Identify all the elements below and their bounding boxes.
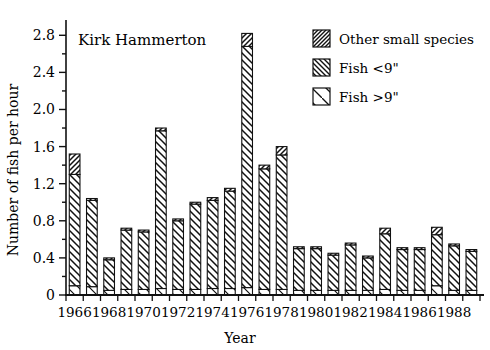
- legend-label: Fish <9": [339, 60, 399, 76]
- y-tick-label: 2.8: [33, 27, 55, 43]
- bar-segment: [87, 199, 98, 201]
- bar-group: [121, 228, 132, 295]
- chart-figure: 00.40.81.21.62.02.42.8 19661968197019721…: [0, 0, 490, 350]
- bar-group: [87, 199, 98, 295]
- bar-segment: [397, 248, 408, 250]
- bar-group: [397, 248, 408, 295]
- bar-group: [173, 219, 184, 295]
- bar-segment: [104, 260, 115, 291]
- bar-segment: [138, 230, 149, 232]
- x-tick-label: 1978: [264, 304, 298, 320]
- bar-segment: [466, 250, 477, 252]
- bar-segment: [69, 286, 80, 295]
- bar-group: [328, 253, 339, 295]
- x-tick-label: 1982: [333, 304, 367, 320]
- x-tick-label: 1972: [161, 304, 195, 320]
- bar-segment: [397, 250, 408, 291]
- bar-segment: [345, 243, 356, 245]
- bar-segment: [190, 202, 201, 204]
- legend-swatch: [313, 88, 330, 105]
- x-tick-label: 1988: [437, 304, 471, 320]
- bar-segment: [242, 288, 253, 295]
- bar-segment: [121, 230, 132, 289]
- y-axis-label: Number of fish per hour: [5, 83, 21, 256]
- bar-segment: [345, 245, 356, 290]
- bar-segment: [242, 33, 253, 46]
- bar-segment: [87, 200, 98, 286]
- bar-segment: [276, 155, 287, 290]
- x-tick-label: 1986: [402, 304, 436, 320]
- bar-segment: [363, 258, 374, 290]
- bar-segment: [207, 289, 218, 295]
- bar-segment: [207, 198, 218, 201]
- x-tick-label: 1966: [57, 304, 91, 320]
- x-tick-label: 1984: [368, 304, 402, 320]
- bar-segment: [190, 204, 201, 289]
- bar-segment: [156, 131, 167, 289]
- bar-segment: [328, 255, 339, 290]
- bar-group: [207, 198, 218, 295]
- bar-segment: [363, 256, 374, 258]
- bar-segment: [311, 249, 322, 291]
- bar-group: [225, 188, 236, 295]
- bar-segment: [432, 286, 443, 295]
- bar-segment: [414, 250, 425, 291]
- bar-segment: [328, 253, 339, 255]
- bar-segment: [380, 234, 391, 290]
- bar-segment: [156, 128, 167, 131]
- bar-segment: [173, 221, 184, 290]
- bar-group: [190, 202, 201, 295]
- bar-segment: [173, 219, 184, 221]
- bar-group: [276, 147, 287, 295]
- x-tick-label: 1968: [92, 304, 126, 320]
- bar-segment: [311, 247, 322, 249]
- x-axis-label: Year: [223, 330, 256, 346]
- bar-group: [156, 128, 167, 295]
- bar-segment: [466, 251, 477, 290]
- x-tick-label: 1970: [126, 304, 160, 320]
- y-tick-label: 0.4: [33, 250, 55, 266]
- bar-group: [380, 228, 391, 295]
- bar-segment: [156, 289, 167, 295]
- y-tick-label: 1.6: [33, 139, 55, 155]
- bar-group: [294, 247, 305, 295]
- bar-segment: [449, 244, 460, 246]
- bar-segment: [259, 165, 270, 169]
- bar-group: [414, 248, 425, 295]
- x-tick-label: 1974: [195, 304, 229, 320]
- x-tick-label: 1980: [299, 304, 333, 320]
- bar-segment: [207, 200, 218, 288]
- bar-group: [104, 258, 115, 295]
- bar-segment: [225, 191, 236, 288]
- y-tick-label: 0: [46, 287, 55, 303]
- bar-segment: [121, 228, 132, 230]
- bar-group: [69, 154, 80, 295]
- chart-title: Kirk Hammerton: [78, 31, 207, 49]
- y-tick-label: 2.0: [33, 101, 55, 117]
- y-tick-label: 1.2: [33, 176, 55, 192]
- y-tick-label: 0.8: [33, 213, 55, 229]
- bar-segment: [69, 154, 80, 174]
- bar-segment: [138, 232, 149, 290]
- bar-segment: [380, 228, 391, 234]
- bar-segment: [432, 227, 443, 234]
- legend-swatch: [313, 30, 330, 47]
- bar-group: [242, 33, 253, 295]
- bar-segment: [432, 235, 443, 286]
- bar-group: [259, 165, 270, 295]
- bar-segment: [449, 246, 460, 291]
- bar-segment: [259, 169, 270, 290]
- legend-label: Other small species: [339, 31, 474, 47]
- bar-segment: [276, 147, 287, 155]
- bar-segment: [69, 174, 80, 285]
- bar-group: [345, 243, 356, 295]
- bar-segment: [242, 46, 253, 287]
- bar-segment: [414, 248, 425, 250]
- x-tick-label: 1976: [230, 304, 264, 320]
- bar-segment: [87, 287, 98, 295]
- bar-group: [311, 247, 322, 295]
- bar-group: [432, 227, 443, 295]
- bar-group: [449, 244, 460, 295]
- bar-group: [363, 256, 374, 295]
- bar-segment: [225, 289, 236, 295]
